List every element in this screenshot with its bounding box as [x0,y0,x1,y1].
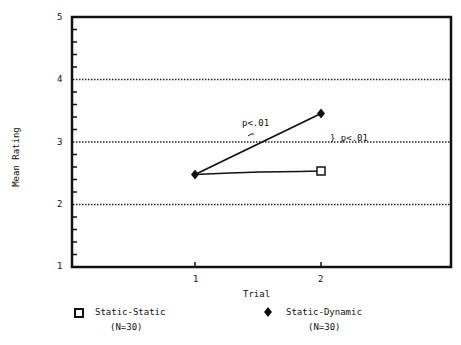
diamond-marker-icon [191,170,199,180]
y-tick-label: 5 [57,12,62,22]
y-tick-label: 4 [57,74,62,84]
annotation-difference: } p<.01 [330,133,368,143]
series-static-static-line [195,171,321,175]
y-tick-label: 3 [57,137,62,147]
legend-label-static-static: Static-Static [95,307,165,317]
annotation-slope: p<.01 [242,118,269,128]
legend-label-static-dynamic: Static-Dynamic [286,307,362,317]
x-tick-label: 2 [318,274,323,284]
legend-diamond-icon [264,307,272,317]
legend-n-static-dynamic: (N=30) [308,322,341,332]
legend-n-static-static: (N=30) [110,322,143,332]
chart-canvas [0,0,461,345]
diamond-marker-icon [317,109,325,119]
y-axis-label: Mean Rating [11,127,21,187]
y-tick-label: 1 [57,261,62,271]
annotation-mark [248,134,254,136]
square-marker-icon [317,167,325,175]
y-tick-label: 2 [57,199,62,209]
x-axis-label: Trial [243,289,270,299]
legend-square-icon [75,309,83,317]
x-tick-label: 1 [193,274,198,284]
